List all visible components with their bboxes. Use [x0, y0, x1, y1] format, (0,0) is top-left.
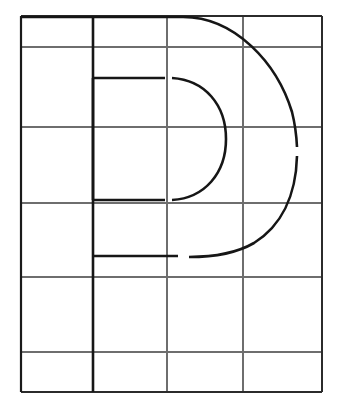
- figure-root: [0, 0, 341, 415]
- letter-p-construction-svg: [0, 0, 341, 415]
- canvas-background: [0, 0, 341, 415]
